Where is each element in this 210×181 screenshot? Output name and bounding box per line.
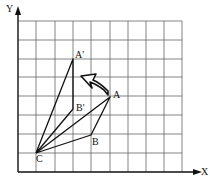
point-c-label: C <box>36 154 43 164</box>
diagram-canvas <box>0 0 210 181</box>
x-axis-label: X <box>201 167 208 177</box>
rotation-diagram: Y X A' A B' B C <box>0 0 210 181</box>
point-a-label: A <box>113 90 120 100</box>
point-b-label: B <box>92 137 99 147</box>
point-a-prime-label: A' <box>75 50 84 60</box>
grid <box>18 21 182 172</box>
point-b-prime-label: B' <box>76 103 84 113</box>
y-axis-arrowhead <box>15 6 21 15</box>
y-axis-label: Y <box>6 4 13 14</box>
